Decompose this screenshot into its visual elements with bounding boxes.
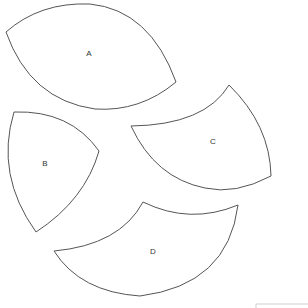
shape-a-label: A: [86, 49, 92, 58]
shape-d: D: [54, 202, 238, 296]
diagram-canvas: A B C D: [0, 0, 308, 308]
shape-a: A: [6, 4, 176, 109]
shape-c: C: [131, 85, 271, 190]
shape-b: B: [8, 112, 99, 232]
corner-mark: [256, 304, 308, 308]
shape-d-label: D: [150, 247, 156, 256]
shape-b-label: B: [42, 159, 47, 168]
shape-c-label: C: [210, 137, 216, 146]
shapes-svg: A B C D: [0, 0, 308, 308]
